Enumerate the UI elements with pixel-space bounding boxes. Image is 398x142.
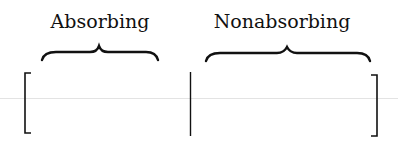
left-bracket-icon <box>25 73 31 133</box>
nonabsorbing-brace-icon <box>206 47 370 61</box>
diagram-shapes <box>0 0 398 142</box>
right-bracket-icon <box>371 75 377 136</box>
matrix-partition-diagram: Absorbing Nonabsorbing <box>0 0 398 142</box>
absorbing-brace-icon <box>42 46 158 60</box>
